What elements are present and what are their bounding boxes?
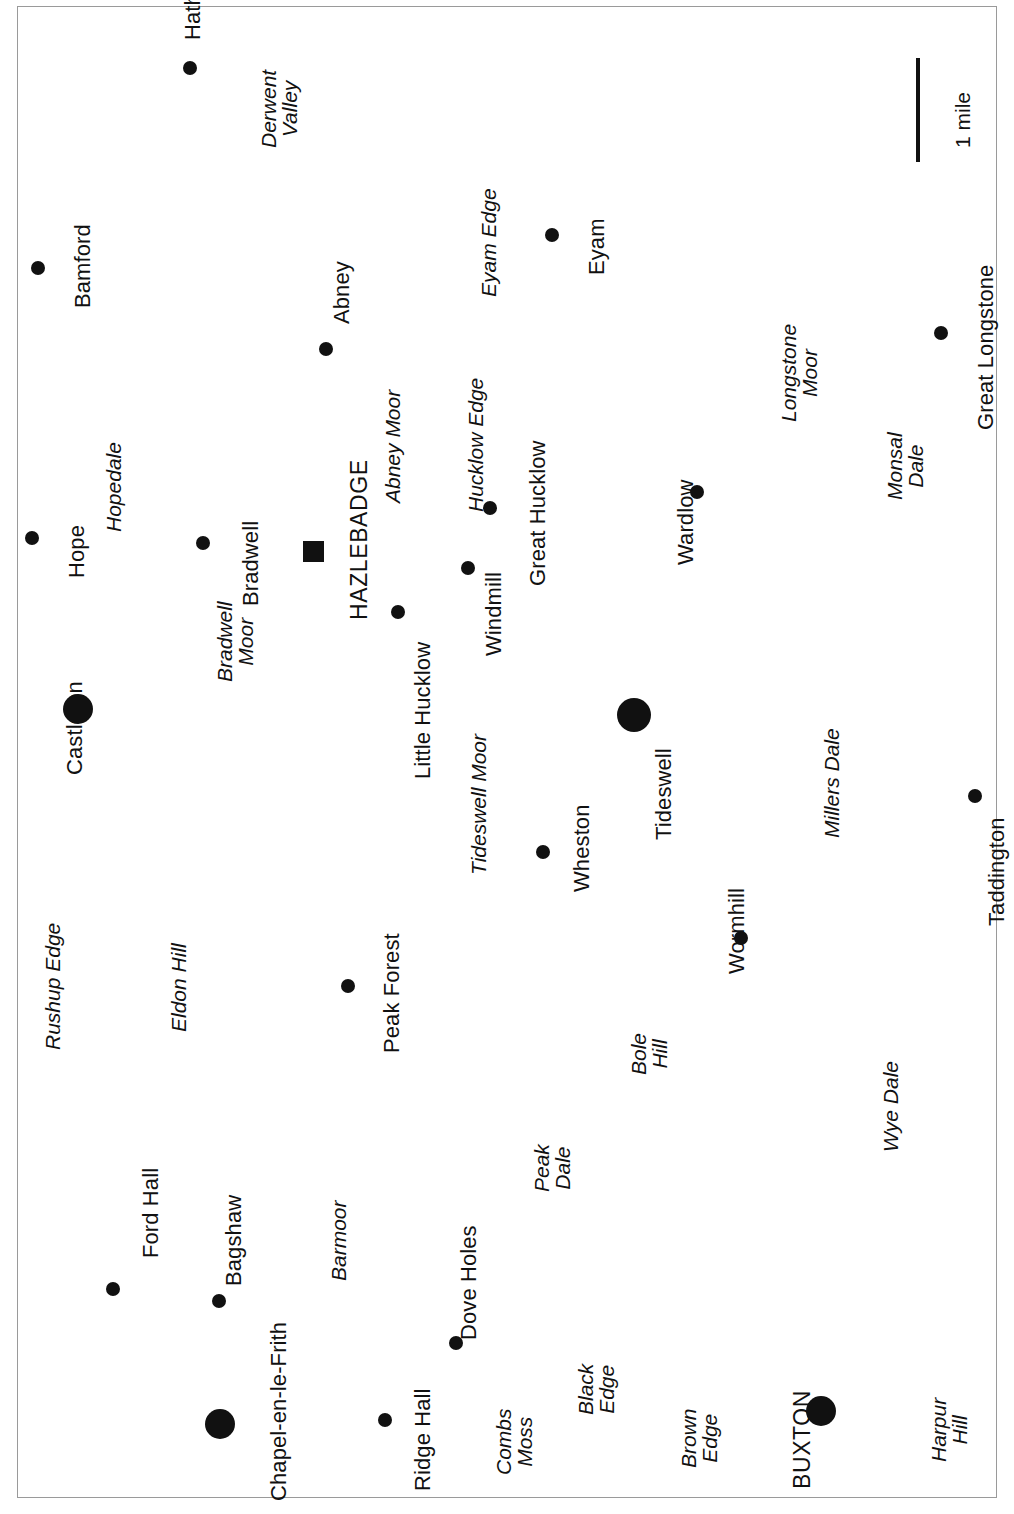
area-line: Moor	[235, 601, 256, 682]
settlement-label-eyam: Eyam	[586, 218, 608, 275]
settlement-dot-hathersage[interactable]	[183, 61, 197, 75]
settlement-dot-wheston[interactable]	[536, 845, 550, 859]
area-label-barmoor: Barmoor	[328, 1200, 349, 1281]
settlement-label-taddington: Taddington	[986, 817, 1008, 926]
settlement-label-bamford: Bamford	[72, 224, 94, 308]
settlement-dot-bagshaw[interactable]	[212, 1294, 226, 1308]
settlement-label-ford-hall: Ford Hall	[140, 1168, 162, 1258]
area-line: Bradwell	[214, 601, 235, 682]
area-line: Hill	[949, 1398, 970, 1462]
settlement-label-bagshaw: Bagshaw	[223, 1195, 245, 1286]
area-line: Peak	[531, 1144, 552, 1192]
settlement-dot-bradwell[interactable]	[196, 536, 210, 550]
area-label-derwent-valley: Derwent Valley	[258, 70, 300, 148]
area-line: Hill	[649, 1033, 670, 1075]
settlement-label-hope: Hope	[66, 525, 88, 578]
area-label-harpur-hill: Harpur Hill	[928, 1398, 970, 1462]
area-label-rushup-edge: Rushup Edge	[42, 923, 63, 1050]
settlement-dot-taddington[interactable]	[968, 789, 982, 803]
settlement-label-wheston: Wheston	[571, 804, 593, 892]
area-line: Valley	[279, 70, 300, 148]
area-label-abney-moor: Abney Moor	[382, 390, 403, 503]
settlement-label-castleton: Castleton	[64, 681, 86, 775]
area-line: Derwent	[258, 70, 279, 148]
area-label-bradwell-moor: Bradwell Moor	[214, 601, 256, 682]
settlement-dot-chapel-en-le-frith[interactable]	[205, 1409, 235, 1439]
area-label-combs-moss: Combs Moss	[493, 1408, 535, 1475]
settlement-dot-tideswell[interactable]	[617, 698, 651, 732]
settlement-dot-little-hucklow[interactable]	[391, 605, 405, 619]
area-label-longstone-moor: Longstone Moor	[778, 324, 820, 422]
area-label-bole-hill: Bole Hill	[628, 1033, 670, 1075]
area-line: Combs	[493, 1408, 514, 1475]
area-line: Edge	[596, 1364, 617, 1415]
area-label-wye-dale: Wye Dale	[880, 1061, 901, 1152]
settlement-dot-abney[interactable]	[319, 342, 333, 356]
settlement-dot-great-longstone[interactable]	[934, 326, 948, 340]
settlement-label-dove-holes: Dove Holes	[458, 1225, 480, 1340]
settlement-label-tideswell: Tideswell	[653, 748, 675, 840]
settlement-dot-hope[interactable]	[25, 531, 39, 545]
settlement-label-buxton: BUXTON	[791, 1390, 814, 1489]
settlement-label-great-longstone: Great Longstone	[975, 265, 997, 430]
area-line: Harpur	[928, 1398, 949, 1462]
settlement-label-bradwell: Bradwell	[240, 521, 262, 606]
area-label-millers-dale: Millers Dale	[821, 728, 842, 838]
scale-bar-label: 1 mile	[952, 92, 973, 148]
settlement-label-ridge-hall: Ridge Hall	[412, 1389, 434, 1492]
area-label-brown-edge: Brown Edge	[678, 1408, 720, 1468]
settlement-dot-peak-forest[interactable]	[341, 979, 355, 993]
area-label-hopedale: Hopedale	[103, 442, 124, 532]
location-map: 1 mile Hathersage Bamford Eyam Great Lon…	[0, 0, 1014, 1514]
area-label-monsal-dale: Monsal Dale	[884, 432, 926, 500]
map-frame-border	[17, 6, 997, 1498]
area-label-eldon-hill: Eldon Hill	[168, 943, 189, 1032]
area-label-eyam-edge: Eyam Edge	[478, 188, 499, 297]
settlement-dot-ridge-hall[interactable]	[378, 1413, 392, 1427]
area-line: Moss	[514, 1408, 535, 1475]
area-label-black-edge: Black Edge	[575, 1364, 617, 1415]
area-line: Bole	[628, 1033, 649, 1075]
scale-bar	[916, 58, 920, 162]
settlement-label-chapel-en-le-frith: Chapel-en-le-Frith	[268, 1322, 290, 1501]
settlement-label-abney: Abney	[331, 261, 353, 324]
area-label-tideswell-moor: Tideswell Moor	[468, 734, 489, 875]
area-label-peak-dale: Peak Dale	[531, 1144, 573, 1192]
settlement-dot-ford-hall[interactable]	[106, 1282, 120, 1296]
area-line: Edge	[699, 1408, 720, 1468]
area-line: Longstone	[778, 324, 799, 422]
area-line: Dale	[552, 1144, 573, 1192]
settlement-label-windmill: Windmill	[483, 572, 505, 656]
area-line: Black	[575, 1364, 596, 1415]
settlement-dot-windmill[interactable]	[461, 561, 475, 575]
settlement-label-great-hucklow: Great Hucklow	[527, 440, 549, 586]
area-line: Brown	[678, 1408, 699, 1468]
settlement-label-wormhill: Wormhill	[726, 888, 748, 974]
settlement-label-peak-forest: Peak Forest	[381, 933, 403, 1053]
settlement-dot-eyam[interactable]	[545, 228, 559, 242]
area-label-hucklow-edge: Hucklow Edge	[465, 378, 486, 512]
settlement-label-wardlow: Wardlow	[675, 480, 697, 565]
area-line: Dale	[905, 432, 926, 500]
settlement-label-hathersage: Hathersage	[182, 0, 204, 40]
area-line: Moor	[799, 324, 820, 422]
settlement-dot-bamford[interactable]	[31, 261, 45, 275]
settlement-label-hazlebadge: HAZLEBADGE	[348, 459, 371, 620]
settlement-square-hazlebadge[interactable]	[303, 541, 324, 562]
area-line: Monsal	[884, 432, 905, 500]
settlement-label-little-hucklow: Little Hucklow	[412, 642, 434, 779]
